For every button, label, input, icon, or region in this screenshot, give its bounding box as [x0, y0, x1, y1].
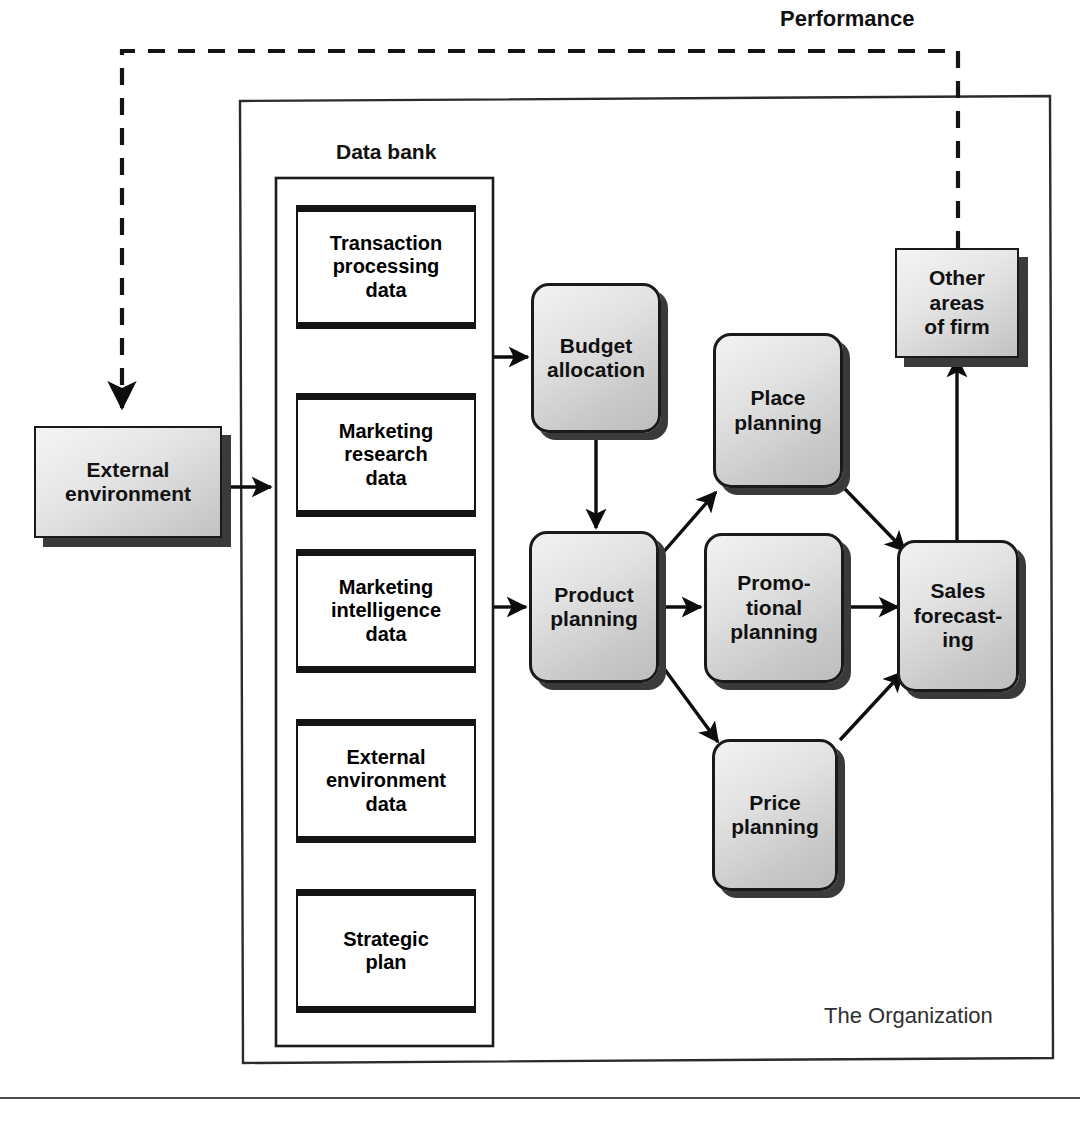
data-bank-item-label: Marketing research data: [339, 420, 433, 490]
data-bank-item-label: Strategic plan: [343, 928, 429, 974]
data-bank-item-marketing-research-data[interactable]: Marketing research data: [296, 393, 476, 517]
arrow-price-to-sales: [840, 672, 903, 740]
other-areas-of-firm-label: Other areas of firm: [924, 266, 989, 339]
data-bank-item-label: External environment data: [326, 746, 446, 816]
other-areas-of-firm-box[interactable]: Other areas of firm: [895, 248, 1019, 358]
process-price-planning[interactable]: Price planning: [712, 739, 838, 891]
external-environment-label: External environment: [65, 458, 191, 507]
organization-label: The Organization: [824, 1003, 993, 1029]
data-bank-item-external-environment-data[interactable]: External environment data: [296, 719, 476, 843]
process-product-planning[interactable]: Product planning: [529, 531, 659, 683]
process-label: Budget allocation: [547, 334, 645, 383]
process-label: Sales forecast- ing: [914, 579, 1003, 652]
process-sales-forecasting[interactable]: Sales forecast- ing: [897, 540, 1019, 692]
data-bank-item-label: Transaction processing data: [330, 232, 442, 302]
process-budget-allocation[interactable]: Budget allocation: [531, 283, 661, 433]
data-bank-item-transaction-processing-data[interactable]: Transaction processing data: [296, 205, 476, 329]
data-bank-item-marketing-intelligence-data[interactable]: Marketing intelligence data: [296, 549, 476, 673]
process-label: Price planning: [731, 791, 819, 840]
data-bank-item-label: Marketing intelligence data: [331, 576, 441, 646]
data-bank-label: Data bank: [336, 140, 436, 164]
process-label: Place planning: [734, 386, 822, 435]
bottom-divider: [0, 1097, 1080, 1099]
external-environment-box[interactable]: External environment: [34, 426, 222, 538]
performance-label: Performance: [780, 6, 915, 32]
process-label: Product planning: [550, 583, 638, 632]
data-bank-item-strategic-plan[interactable]: Strategic plan: [296, 889, 476, 1013]
process-place-planning[interactable]: Place planning: [713, 333, 843, 488]
process-promotional-planning[interactable]: Promo- tional planning: [704, 533, 844, 683]
process-label: Promo- tional planning: [730, 571, 818, 644]
arrow-place-to-sales: [845, 489, 905, 551]
diagram-canvas: Performance Data bank The Organization E…: [0, 0, 1080, 1131]
